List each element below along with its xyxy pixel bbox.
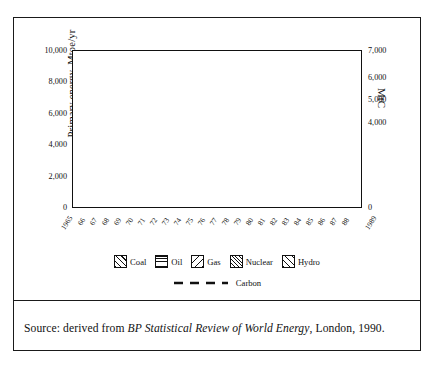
x-tick-80: 80 xyxy=(244,216,256,227)
x-tick-81: 81 xyxy=(256,216,268,227)
x-tick-88: 88 xyxy=(340,216,352,227)
x-tick-84: 84 xyxy=(292,216,304,227)
legend-item-oil: Oil xyxy=(155,255,182,268)
x-axis-labels: 1965 66 67 68 69 70 71 72 73 74 75 76 77… xyxy=(0,0,436,368)
legend-label-oil: Oil xyxy=(171,257,182,267)
x-tick-70: 70 xyxy=(124,216,136,227)
source-suffix: , London, 1990. xyxy=(310,322,385,335)
swatch-coal-icon xyxy=(114,255,127,268)
x-tick-1989: 1989 xyxy=(363,214,379,231)
swatch-gas-icon xyxy=(191,255,204,268)
series-legend: Coal Oil Gas Nuclear Hydro xyxy=(72,255,362,268)
source-note: Source: derived from BP Statistical Revi… xyxy=(24,322,424,335)
x-tick-71: 71 xyxy=(136,216,148,227)
carbon-dash-icon xyxy=(173,279,229,287)
x-tick-76: 76 xyxy=(196,216,208,227)
legend-item-hydro: Hydro xyxy=(282,255,320,268)
x-tick-69: 69 xyxy=(112,216,124,227)
legend-item-nuclear: Nuclear xyxy=(230,255,273,268)
x-tick-86: 86 xyxy=(316,216,328,227)
x-tick-74: 74 xyxy=(172,216,184,227)
legend-item-coal: Coal xyxy=(114,255,146,268)
x-tick-66: 66 xyxy=(76,216,88,227)
x-tick-82: 82 xyxy=(268,216,280,227)
x-tick-77: 77 xyxy=(208,216,220,227)
swatch-hydro-icon xyxy=(282,255,295,268)
source-prefix: Source: derived from xyxy=(24,322,128,335)
legend-label-gas: Gas xyxy=(207,257,220,267)
figure-page: Primary energy, Mtoe/yr MtC 10,000 8,000… xyxy=(0,0,436,368)
x-tick-73: 73 xyxy=(160,216,172,227)
source-title: BP Statistical Review of World Energy xyxy=(128,322,310,335)
x-tick-78: 78 xyxy=(220,216,232,227)
legend-label-coal: Coal xyxy=(130,257,146,267)
chart-area: Primary energy, Mtoe/yr MtC 10,000 8,000… xyxy=(0,0,436,368)
legend-label-carbon: Carbon xyxy=(236,278,261,288)
legend-item-gas: Gas xyxy=(191,255,220,268)
x-tick-83: 83 xyxy=(280,216,292,227)
x-tick-68: 68 xyxy=(100,216,112,227)
x-tick-75: 75 xyxy=(184,216,196,227)
legend-label-hydro: Hydro xyxy=(298,257,320,267)
x-tick-85: 85 xyxy=(304,216,316,227)
carbon-legend: Carbon xyxy=(72,278,362,288)
source-divider xyxy=(13,300,421,301)
x-tick-72: 72 xyxy=(148,216,160,227)
x-tick-67: 67 xyxy=(88,216,100,227)
legend-label-nuclear: Nuclear xyxy=(246,257,273,267)
swatch-nuclear-icon xyxy=(230,255,243,268)
x-tick-87: 87 xyxy=(328,216,340,227)
x-tick-79: 79 xyxy=(232,216,244,227)
swatch-oil-icon xyxy=(155,255,168,268)
x-tick-1965: 1965 xyxy=(59,214,75,231)
